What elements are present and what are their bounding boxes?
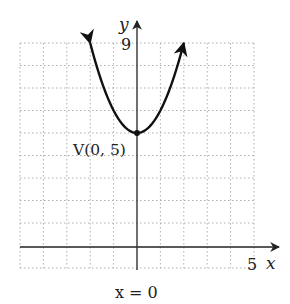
axis-of-symmetry-label: x = 0 (115, 283, 158, 302)
vertex-label: V(0, 5) (72, 141, 126, 159)
y-axis-label: y (118, 14, 129, 34)
x-tick-5: 5 (247, 255, 257, 274)
y-tick-9: 9 (121, 35, 131, 54)
parabola-graph: y 9 V(0, 5) 5 x x = 0 (0, 0, 290, 304)
x-axis-label: x (266, 253, 276, 273)
vertex-point (134, 130, 140, 136)
